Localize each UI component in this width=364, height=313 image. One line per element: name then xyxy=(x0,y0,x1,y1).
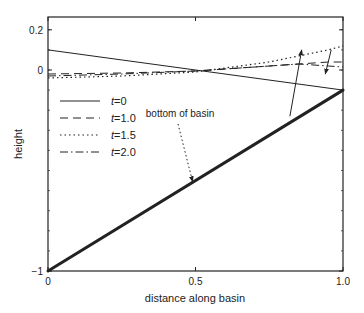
y-tick-label: 0.2 xyxy=(29,25,43,36)
y-tick-label: −1 xyxy=(32,266,44,277)
x-tick-label: 1.0 xyxy=(336,276,350,287)
x-axis-ticks: 00.51.0 xyxy=(45,17,350,287)
legend-label: t=1.0 xyxy=(111,112,136,124)
legend-label: t=1.5 xyxy=(111,129,136,141)
legend-label: t=0 xyxy=(111,95,127,107)
annotation-bottom-of-basin: bottom of basin xyxy=(146,108,214,119)
x-tick-label: 0.5 xyxy=(189,276,203,287)
plot-area xyxy=(48,46,343,271)
plot-frame xyxy=(48,17,343,271)
y-axis-ticks: −100.2 xyxy=(29,25,343,277)
chart: 00.51.0 −100.2 distance along basin heig… xyxy=(0,0,364,313)
y-axis-label: height xyxy=(12,129,24,159)
x-tick-label: 0 xyxy=(45,276,51,287)
legend-label: t=2.0 xyxy=(111,146,136,158)
legend: t=0t=1.0t=1.5t=2.0 xyxy=(60,95,136,158)
y-tick-label: 0 xyxy=(37,65,43,76)
x-axis-label: distance along basin xyxy=(145,292,245,304)
